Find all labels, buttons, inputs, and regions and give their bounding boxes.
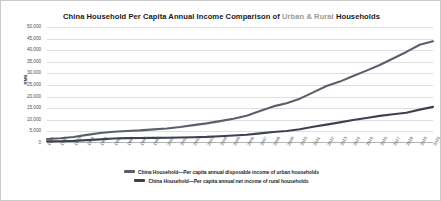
chart-title: China Household Per Capita Annual Income… — [1, 12, 441, 21]
y-axis-tick: 5,000 — [30, 129, 42, 134]
series-line-urban — [47, 41, 433, 139]
y-axis-tick: 35,000 — [27, 59, 41, 64]
y-axis-tick: 0 — [38, 140, 41, 145]
legend-swatch-rural — [134, 179, 145, 181]
chart-title-ampersand: & — [306, 12, 312, 21]
plot-area — [47, 27, 433, 143]
y-axis-tick-labels: 05,00010,00015,00020,00025,00030,00035,0… — [1, 27, 45, 143]
chart-card: China Household Per Capita Annual Income… — [0, 0, 441, 201]
y-axis-tick: 15,000 — [27, 106, 41, 111]
legend-label-urban: China Household—Per capita annual dispos… — [138, 169, 319, 175]
chart-title-tail: Households — [336, 12, 380, 21]
legend-item-urban[interactable]: China Household—Per capita annual dispos… — [1, 167, 441, 176]
legend-swatch-urban — [124, 170, 135, 172]
x-axis-tick-labels: 1991199219931994199519961997199819992000… — [47, 144, 433, 166]
chart-title-urban: Urban — [282, 12, 304, 21]
y-axis-tick: 10,000 — [27, 117, 41, 122]
y-axis-tick: 45,000 — [27, 36, 41, 41]
legend-item-rural[interactable]: China Household—Per capita annual net in… — [1, 176, 441, 185]
x-axis-tick: 2020 — [432, 136, 441, 147]
y-axis-tick: 20,000 — [27, 94, 41, 99]
y-axis-tick: 30,000 — [27, 71, 41, 76]
legend-label-rural: China Household—Per capita annual net in… — [148, 178, 308, 184]
chart-title-rural: Rural — [314, 12, 334, 21]
y-axis-tick: 25,000 — [27, 82, 41, 87]
y-axis-tick: 50,000 — [27, 24, 41, 29]
chart-legend: China Household—Per capita annual dispos… — [1, 167, 441, 185]
series-lines — [47, 27, 433, 143]
y-axis-tick: 40,000 — [27, 48, 41, 53]
chart-title-lead: China Household Per Capita Annual Income… — [63, 12, 280, 21]
